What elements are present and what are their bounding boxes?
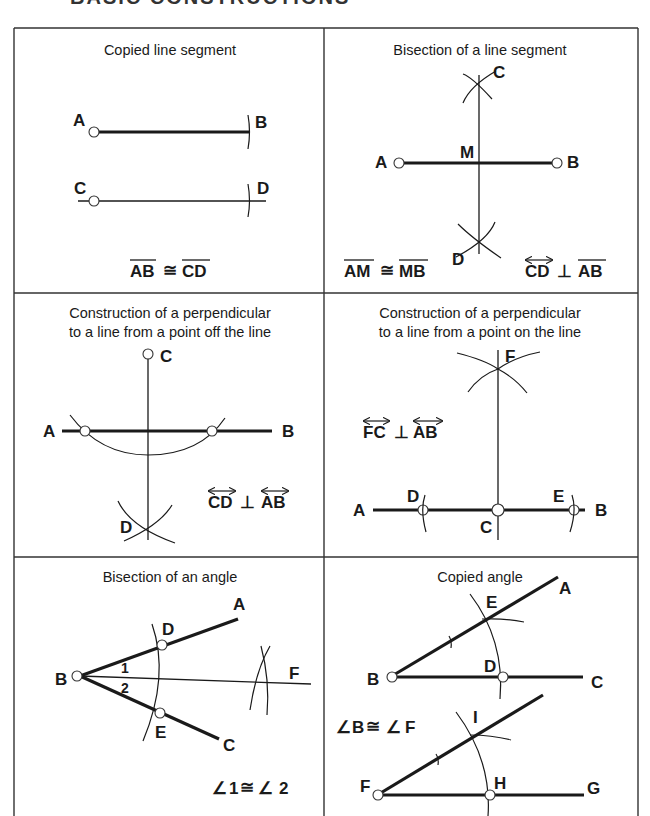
svg-text:∠: ∠ xyxy=(386,718,401,737)
svg-text:AB: AB xyxy=(413,423,438,442)
panel-title-line1: Construction of a perpendicular xyxy=(69,305,271,321)
panel-title-line2: to a line from a point on the line xyxy=(379,324,581,340)
svg-text:≅: ≅ xyxy=(240,778,254,797)
label-a: A xyxy=(73,111,85,130)
label-b: B xyxy=(55,670,67,689)
svg-text:CD: CD xyxy=(525,262,550,281)
label-h: H xyxy=(494,774,506,793)
label-m: M xyxy=(460,143,474,162)
relation-text: CD ⊥ AB xyxy=(208,491,288,512)
label-e: E xyxy=(553,487,564,506)
svg-text:AB: AB xyxy=(261,493,286,512)
svg-text:∠: ∠ xyxy=(336,718,351,737)
svg-text:CD: CD xyxy=(208,493,233,512)
svg-text:AB: AB xyxy=(130,262,155,281)
svg-text:2: 2 xyxy=(279,779,288,798)
svg-text:B: B xyxy=(352,718,364,737)
svg-text:≅: ≅ xyxy=(380,261,394,280)
svg-text:FC: FC xyxy=(363,423,386,442)
svg-text:AM: AM xyxy=(344,262,370,281)
relation-text: AB ≅ CD xyxy=(130,260,210,281)
svg-text:MB: MB xyxy=(399,262,425,281)
label-d: D xyxy=(257,179,269,198)
svg-text:≅: ≅ xyxy=(366,717,380,736)
relation-text-perpendicular: CD ⊥ AB xyxy=(525,260,606,281)
label-b: B xyxy=(282,422,294,441)
relation-text-congruent: AM ≅ MB xyxy=(344,260,428,281)
panel-title-line2: to a line from a point off the line xyxy=(69,324,271,340)
label-e: E xyxy=(155,723,166,742)
point-a xyxy=(89,127,99,137)
label-c: C xyxy=(493,63,505,82)
svg-text:≅: ≅ xyxy=(163,261,177,280)
svg-text:∠: ∠ xyxy=(212,779,227,798)
panel-title: Copied angle xyxy=(437,569,522,585)
svg-text:∠: ∠ xyxy=(258,779,273,798)
label-a: A xyxy=(233,595,245,614)
label-a: A xyxy=(43,422,55,441)
label-g: G xyxy=(587,779,600,798)
svg-text:⊥: ⊥ xyxy=(557,262,572,281)
relation-text: ∠ 1 ≅ ∠ 2 xyxy=(212,778,288,798)
label-b: B xyxy=(367,670,379,689)
label-c: C xyxy=(480,518,492,537)
svg-text:CD: CD xyxy=(182,262,207,281)
panel-copied-line-segment: Copied line segment A B C D AB ≅ CD xyxy=(73,42,269,281)
svg-text:1: 1 xyxy=(229,779,238,798)
relation-text: ∠ B ≅ ∠ F xyxy=(336,717,415,737)
label-c: C xyxy=(160,347,172,366)
panel-perpendicular-on-line: Construction of a perpendicular to a lin… xyxy=(353,305,607,540)
label-f: F xyxy=(505,347,515,366)
svg-text:F: F xyxy=(405,718,415,737)
panel-perpendicular-off-line: Construction of a perpendicular to a lin… xyxy=(43,305,294,543)
label-c: C xyxy=(74,179,86,198)
label-b: B xyxy=(567,153,579,172)
label-d: D xyxy=(162,620,174,639)
panel-bisection-line-segment: Bisection of a line segment A B C D M AM… xyxy=(344,42,606,281)
label-f: F xyxy=(289,664,299,683)
label-a: A xyxy=(559,579,571,598)
label-a: A xyxy=(375,153,387,172)
point-c xyxy=(89,196,99,206)
label-a: A xyxy=(353,501,365,520)
angle-label-2: 2 xyxy=(121,680,129,696)
svg-text:⊥: ⊥ xyxy=(394,423,409,442)
constructions-sheet: Copied line segment A B C D AB ≅ CD Bise… xyxy=(0,0,650,816)
label-b: B xyxy=(255,113,267,132)
relation-text: FC ⊥ AB xyxy=(363,421,442,442)
panel-bisection-angle: Bisection of an angle B A C D E F 1 2 ∠ … xyxy=(55,569,311,798)
label-e: E xyxy=(486,593,497,612)
label-d: D xyxy=(120,518,132,537)
angle-label-1: 1 xyxy=(121,660,129,676)
panel-title-line1: Construction of a perpendicular xyxy=(379,305,581,321)
label-d: D xyxy=(452,250,464,269)
panel-grid xyxy=(14,28,638,816)
label-d: D xyxy=(484,657,496,676)
panel-title: Bisection of a line segment xyxy=(393,42,566,58)
panel-title: Copied line segment xyxy=(104,42,236,58)
svg-text:AB: AB xyxy=(578,262,603,281)
panel-copied-angle: Copied angle B A C D E F G H I ∠ B ≅ ∠ F xyxy=(336,569,603,816)
label-c: C xyxy=(591,673,603,692)
label-f: F xyxy=(360,777,370,796)
label-d: D xyxy=(407,487,419,506)
svg-text:⊥: ⊥ xyxy=(240,493,255,512)
label-c: C xyxy=(223,736,235,755)
label-b: B xyxy=(595,501,607,520)
label-i: I xyxy=(473,708,478,727)
panel-title: Bisection of an angle xyxy=(103,569,238,585)
